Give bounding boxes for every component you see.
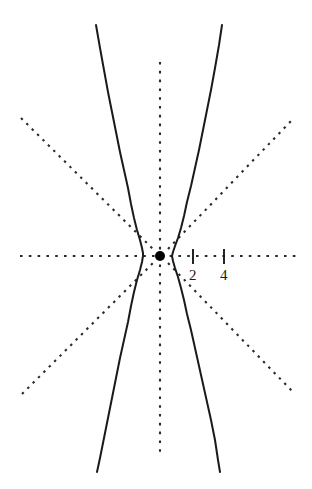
origin-dot — [155, 251, 165, 261]
x-tick-label-4: 4 — [220, 268, 228, 283]
plot-background — [0, 0, 312, 489]
hyperbola-figure: 2 4 — [0, 0, 312, 489]
x-tick-label-2: 2 — [189, 268, 197, 283]
hyperbola-plot — [0, 0, 312, 489]
